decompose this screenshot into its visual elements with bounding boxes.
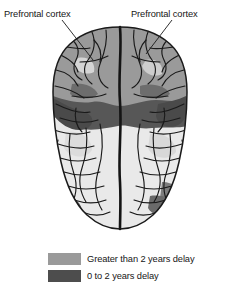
legend-swatch-0-to-2-years [48, 270, 81, 282]
legend: Greater than 2 years delay 0 to 2 years … [48, 250, 228, 284]
legend-swatch-greater-than-2-years [48, 253, 81, 265]
legend-item-0-to-2-years: 0 to 2 years delay [48, 267, 228, 284]
brain-illustration [40, 20, 200, 240]
prefrontal-cortex-label-left: Prefrontal cortex [4, 9, 71, 19]
legend-item-greater-than-2-years: Greater than 2 years delay [48, 250, 228, 267]
longitudinal-fissure [119, 27, 120, 229]
legend-label-0-to-2-years: 0 to 2 years delay [87, 271, 159, 281]
prefrontal-cortex-label-right: Prefrontal cortex [131, 9, 198, 19]
legend-label-greater-than-2-years: Greater than 2 years delay [87, 254, 194, 264]
